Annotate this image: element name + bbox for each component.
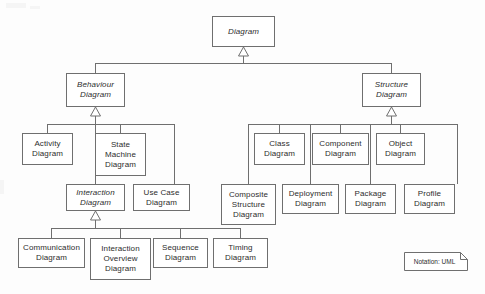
node-interaction-diagram[interactable]: Interaction Diagram xyxy=(66,184,125,211)
node-activity-diagram[interactable]: Activity Diagram xyxy=(22,133,73,165)
uml-diagram-canvas: Diagram Behaviour Diagram Structure Diag… xyxy=(0,0,485,294)
node-behaviour-diagram[interactable]: Behaviour Diagram xyxy=(66,73,125,107)
node-profile-diagram[interactable]: Profile Diagram xyxy=(404,184,455,214)
node-use-case-diagram[interactable]: Use Case Diagram xyxy=(133,184,190,211)
node-deployment-diagram[interactable]: Deployment Diagram xyxy=(282,184,339,214)
notation-note-label: Notation: UML xyxy=(414,258,459,266)
node-diagram[interactable]: Diagram xyxy=(212,16,275,47)
node-package-diagram[interactable]: Package Diagram xyxy=(345,184,396,214)
node-component-diagram[interactable]: Component Diagram xyxy=(312,133,369,165)
node-timing-diagram[interactable]: Timing Diagram xyxy=(213,238,268,268)
node-object-diagram[interactable]: Object Diagram xyxy=(376,133,425,165)
notation-note[interactable]: Notation: UML xyxy=(404,252,468,271)
node-state-machine-diagram[interactable]: State Machine Diagram xyxy=(95,133,146,176)
node-interaction-overview-diagram[interactable]: Interaction Overview Diagram xyxy=(90,238,151,280)
node-communication-diagram[interactable]: Communication Diagram xyxy=(18,238,85,268)
node-class-diagram[interactable]: Class Diagram xyxy=(254,133,305,165)
node-composite-structure-diagram[interactable]: Composite Structure Diagram xyxy=(221,184,276,225)
node-structure-diagram[interactable]: Structure Diagram xyxy=(362,73,421,107)
node-sequence-diagram[interactable]: Sequence Diagram xyxy=(153,238,208,268)
